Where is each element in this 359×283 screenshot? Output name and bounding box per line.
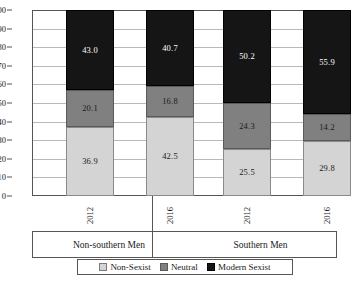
x-axis-year-labels: 2012201620122016 — [32, 198, 337, 232]
black-swatch — [207, 263, 215, 271]
bar-segment[interactable]: 20.1 — [66, 90, 114, 127]
bar-segment-value-label: 55.9 — [319, 58, 335, 67]
bar-segment-value-label: 42.5 — [162, 152, 178, 161]
legend-item[interactable]: Non-Sexist — [99, 263, 151, 272]
bar-segment-value-label: 14.2 — [319, 123, 335, 132]
x-axis-group-labels: Non-southern MenSouthern Men — [32, 231, 337, 258]
y-axis-tick-mark — [7, 196, 12, 197]
bar-segment[interactable]: 50.2 — [223, 10, 271, 103]
y-axis-tick-mark — [7, 28, 12, 29]
bar-segment-value-label: 25.5 — [239, 168, 255, 177]
y-axis-tick-label: 20 — [0, 155, 6, 164]
stacked-bar-chart-figure: 1009080706050403020100 43.020.136.940.71… — [0, 0, 359, 283]
y-axis-tick-label: 30 — [0, 136, 6, 145]
legend-item[interactable]: Modern Sexist — [207, 263, 271, 272]
x-axis-year-label: 2016 — [303, 198, 351, 232]
legend-item[interactable]: Neutral — [160, 263, 198, 272]
y-axis-tick-mark — [7, 121, 12, 122]
bar-segment-value-label: 24.3 — [239, 122, 255, 131]
y-axis-tick-mark — [7, 10, 12, 11]
y-axis-tick-label: 100 — [0, 6, 6, 15]
bar-segment-value-label: 16.8 — [162, 97, 178, 106]
bar-segment-value-label: 40.7 — [162, 44, 178, 53]
light-gray-swatch — [99, 263, 107, 271]
y-axis-tick-mark — [7, 103, 12, 104]
bar-segment[interactable]: 16.8 — [146, 86, 194, 117]
bar-segment[interactable]: 25.5 — [223, 149, 271, 196]
bar-segment[interactable]: 14.2 — [303, 114, 351, 140]
stacked-bar[interactable]: 55.914.229.8 — [303, 10, 351, 196]
stacked-bar[interactable]: 40.716.842.5 — [146, 10, 194, 196]
legend-item-label: Non-Sexist — [110, 263, 151, 272]
x-axis-group-label: Non-southern Men — [33, 232, 185, 257]
legend-item-label: Modern Sexist — [218, 263, 271, 272]
y-axis-tick-mark — [7, 158, 12, 159]
x-axis-year-label: 2016 — [146, 198, 194, 232]
stacked-bar[interactable]: 43.020.136.9 — [66, 10, 114, 196]
y-axis-tick-label: 90 — [0, 24, 6, 33]
stacked-bar[interactable]: 50.224.325.5 — [223, 10, 271, 196]
y-axis-tick-mark — [7, 47, 12, 48]
bar-segment-value-label: 20.1 — [82, 104, 98, 113]
bar-segment-value-label: 29.8 — [319, 164, 335, 173]
bar-segment-value-label: 43.0 — [82, 46, 98, 55]
chart-legend: Non-SexistNeutralModern Sexist — [77, 259, 293, 275]
y-axis-tick-label: 50 — [0, 99, 6, 108]
y-axis-tick-mark — [7, 65, 12, 66]
bars-container: 43.020.136.940.716.842.550.224.325.555.9… — [32, 10, 337, 196]
x-axis-year-label: 2012 — [66, 198, 114, 232]
y-axis-tick-mark — [7, 177, 12, 178]
y-axis-tick-mark — [7, 140, 12, 141]
bar-segment[interactable]: 36.9 — [66, 127, 114, 196]
bar-segment-value-label: 50.2 — [239, 52, 255, 61]
bar-segment[interactable]: 40.7 — [146, 10, 194, 86]
bar-segment[interactable]: 43.0 — [66, 10, 114, 90]
y-axis-tick-label: 70 — [0, 62, 6, 71]
bar-segment-value-label: 36.9 — [82, 157, 98, 166]
y-axis-tick-label: 0 — [2, 192, 6, 201]
bar-segment[interactable]: 55.9 — [303, 10, 351, 114]
y-axis-tick-label: 10 — [0, 173, 6, 182]
bar-segment[interactable]: 42.5 — [146, 117, 194, 196]
y-axis-tick-label: 60 — [0, 80, 6, 89]
legend-item-label: Neutral — [171, 263, 198, 272]
x-axis-group-label: Southern Men — [185, 232, 336, 257]
y-axis-tick-label: 40 — [0, 117, 6, 126]
medium-gray-swatch — [160, 263, 168, 271]
y-axis-tick-label: 80 — [0, 43, 6, 52]
y-axis: 1009080706050403020100 — [0, 0, 32, 196]
x-axis-year-label: 2012 — [223, 198, 271, 232]
y-axis-tick-mark — [7, 84, 12, 85]
bar-segment[interactable]: 24.3 — [223, 103, 271, 148]
bar-segment[interactable]: 29.8 — [303, 141, 351, 196]
